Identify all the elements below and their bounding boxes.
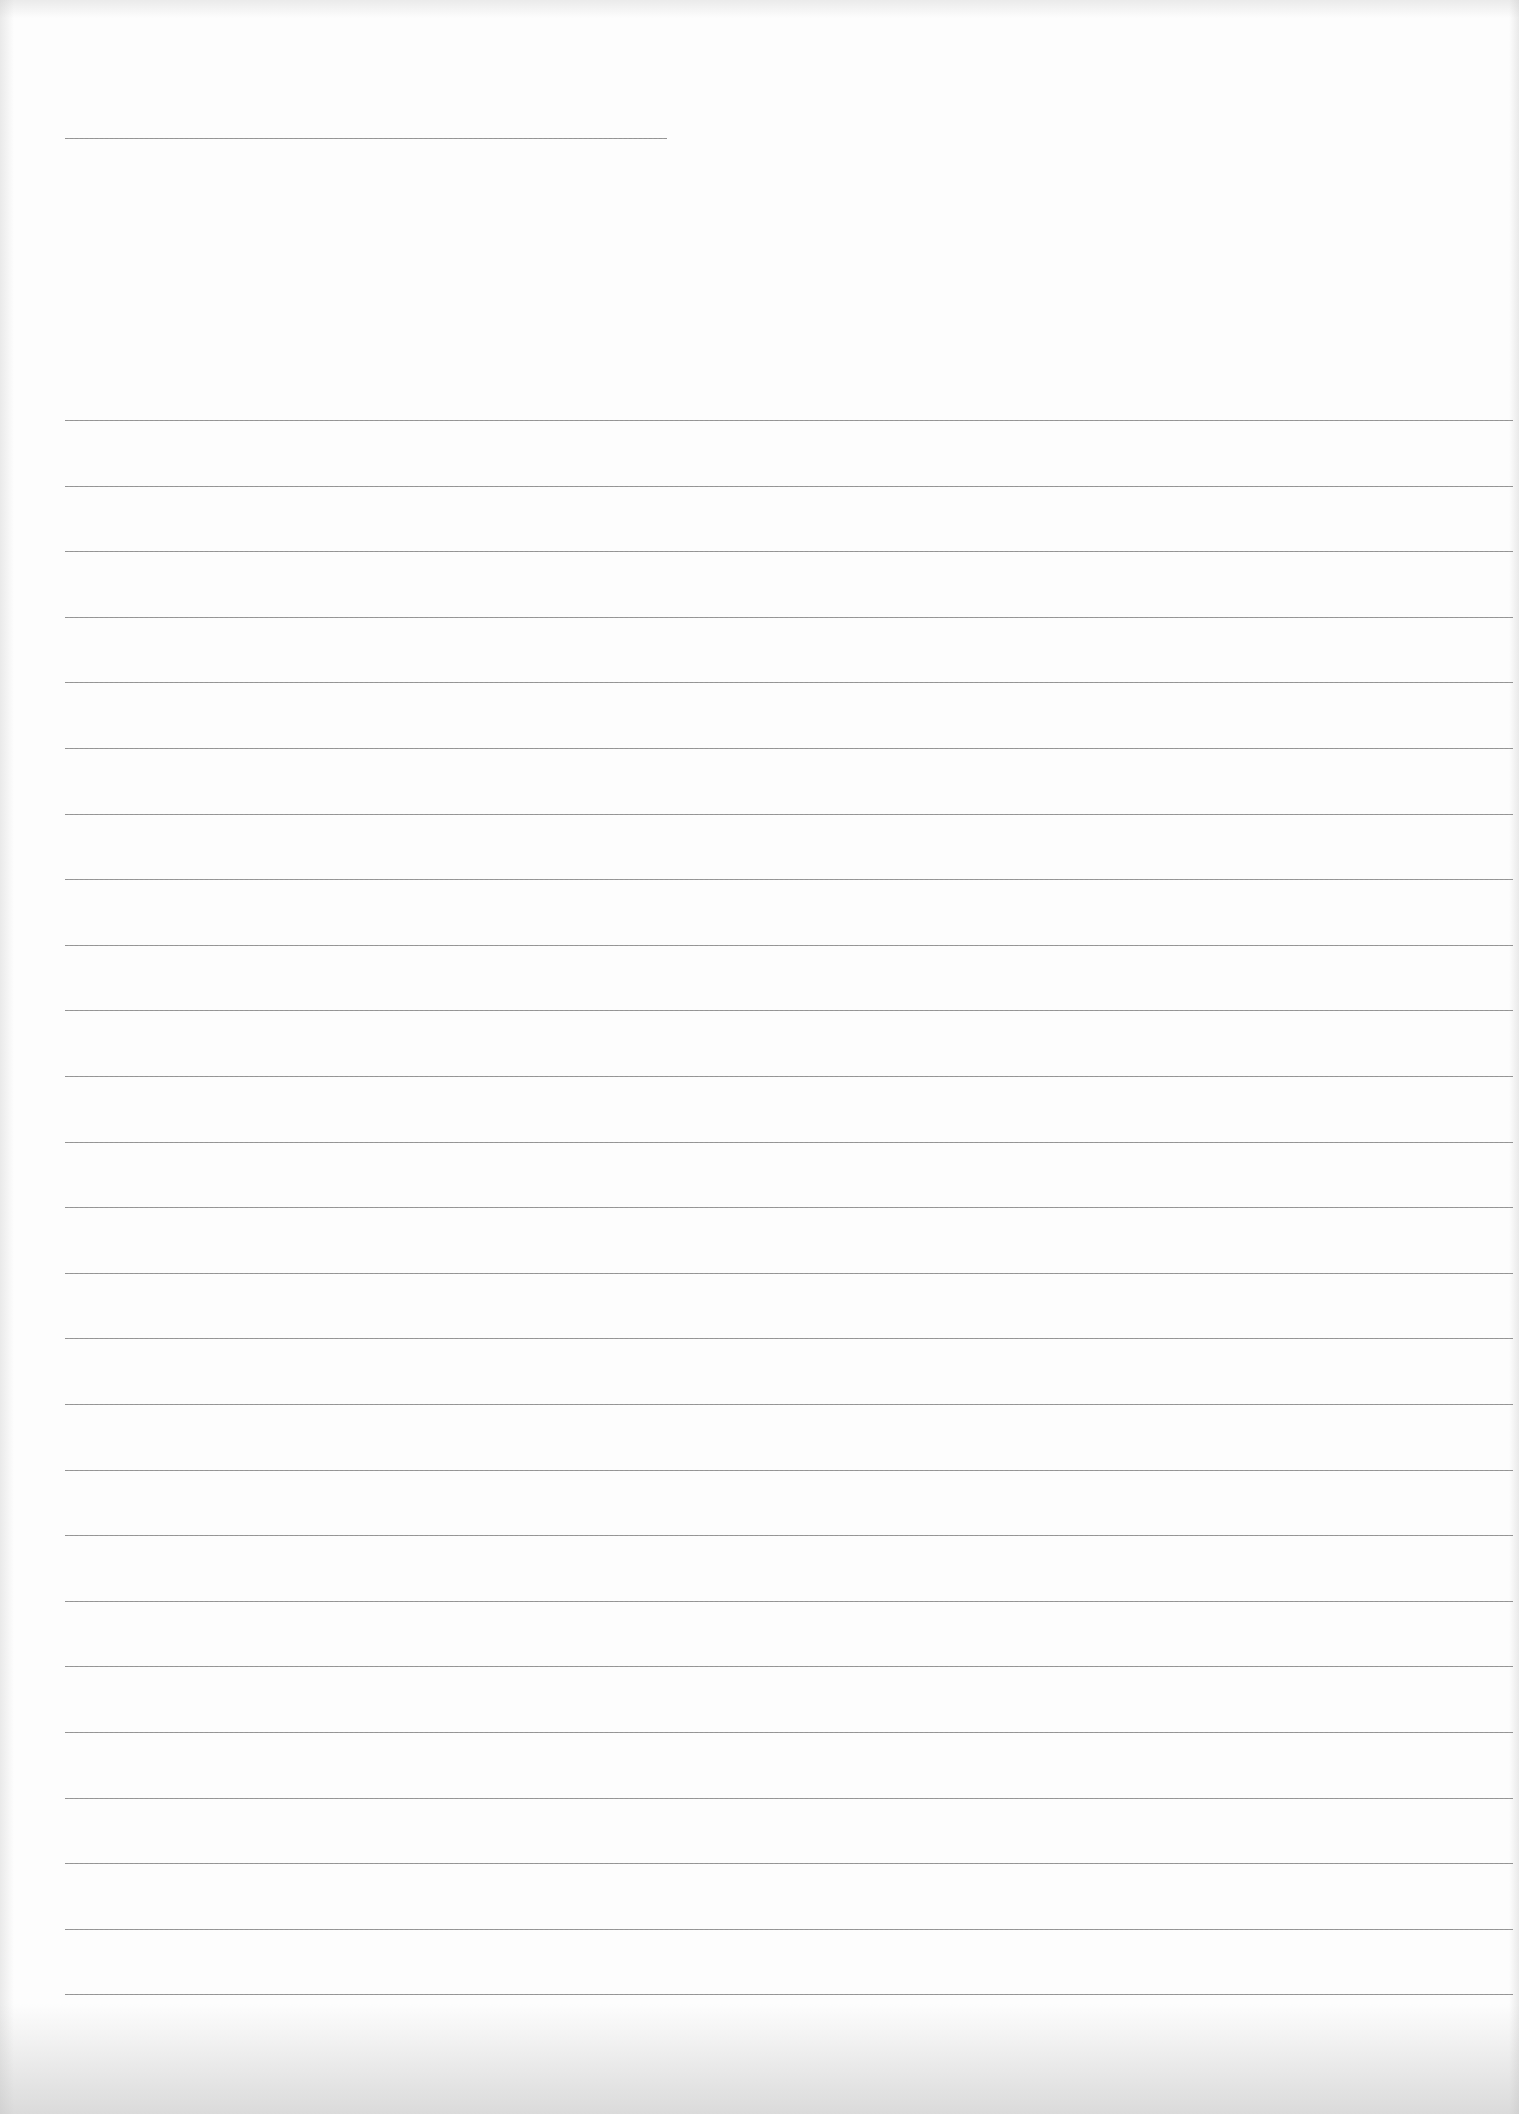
ruled-line <box>65 1863 1513 1865</box>
ruled-line <box>65 682 1513 684</box>
ruled-line <box>65 1470 1513 1472</box>
ruled-line <box>65 1732 1513 1734</box>
ruled-line <box>65 1535 1513 1537</box>
ruled-line <box>65 551 1513 553</box>
ruled-line <box>65 1929 1513 1931</box>
blank-ruled-page <box>0 0 1519 2114</box>
ruled-line <box>65 1010 1513 1012</box>
ruled-line <box>65 420 1513 422</box>
ruled-line <box>65 1338 1513 1340</box>
ruled-line <box>65 748 1513 750</box>
ruled-line <box>65 1994 1513 1996</box>
ruled-line <box>65 617 1513 619</box>
ruled-line <box>65 814 1513 816</box>
ruled-line <box>65 1798 1513 1800</box>
ruled-line <box>65 879 1513 881</box>
ruled-line <box>65 1601 1513 1603</box>
ruled-line <box>65 1076 1513 1078</box>
ruled-line <box>65 486 1513 488</box>
ruled-line <box>65 1666 1513 1668</box>
ruled-line <box>65 1404 1513 1406</box>
ruled-line <box>65 1142 1513 1144</box>
title-underline <box>65 138 667 140</box>
ruled-line <box>65 945 1513 947</box>
ruled-line <box>65 1273 1513 1275</box>
ruled-line <box>65 1207 1513 1209</box>
